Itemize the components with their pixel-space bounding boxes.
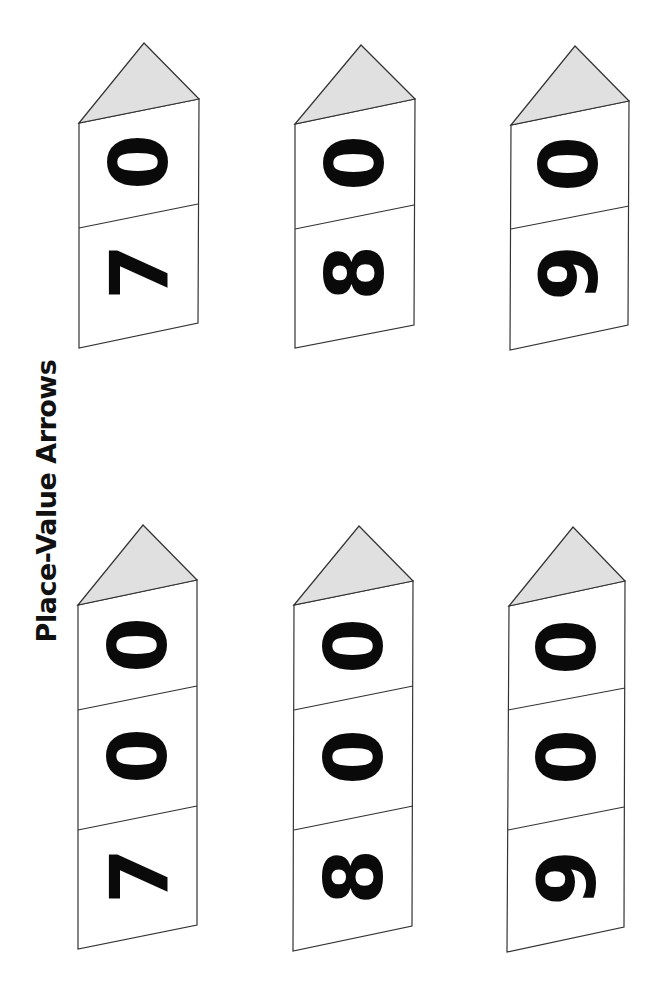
page-title: Place-Value Arrows bbox=[31, 360, 62, 643]
arrow-80-digit-tens: 8 bbox=[316, 245, 396, 301]
arrow-90-digit-tens: 9 bbox=[530, 245, 610, 301]
arrow-80-digit-ones: 0 bbox=[316, 135, 396, 191]
arrow-800-digit-hundreds: 8 bbox=[315, 849, 395, 905]
arrow-900-digit-hundreds: 9 bbox=[528, 850, 608, 906]
arrow-700-digit-tens: 0 bbox=[99, 728, 179, 784]
arrow-90-digit-ones: 0 bbox=[530, 136, 610, 192]
arrow-800-digit-tens: 0 bbox=[315, 729, 395, 785]
arrow-70-digit-tens: 7 bbox=[100, 244, 180, 300]
arrow-900-digit-tens: 0 bbox=[528, 729, 608, 785]
arrow-800-digit-ones: 0 bbox=[315, 618, 395, 674]
arrow-700-digit-hundreds: 7 bbox=[100, 848, 180, 904]
arrow-700-digit-ones: 0 bbox=[99, 617, 179, 673]
arrow-70-digit-ones: 0 bbox=[100, 134, 180, 190]
arrow-900-digit-ones: 0 bbox=[528, 619, 608, 675]
